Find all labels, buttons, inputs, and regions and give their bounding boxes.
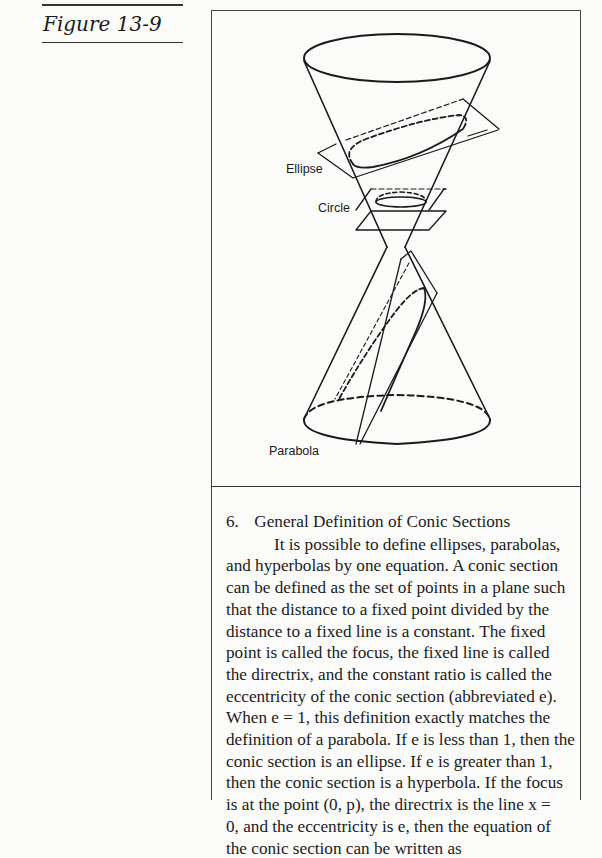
- paragraph-line: can be defined as the set of points in a…: [226, 577, 571, 599]
- upper-cone-left-edge: [304, 61, 387, 247]
- section-paragraph: It is possible to define ellipses, parab…: [226, 534, 571, 858]
- upper-cone-rim: [304, 34, 490, 82]
- circle-curve-front: [376, 197, 426, 207]
- figure-frame: Ellipse Circle Parabola 6. General Defin…: [211, 10, 581, 800]
- parabola-plane-left-edge: [356, 259, 401, 444]
- lower-cone-right-edge: [405, 247, 490, 419]
- lower-cone-left-edge: [304, 247, 387, 419]
- circle-label: Circle: [318, 201, 350, 215]
- section-text: 6. General Definition of Conic Sections …: [226, 511, 571, 858]
- lower-cone-base-front: [304, 419, 490, 444]
- paragraph-line: 0, and the eccentricity is e, then the e…: [226, 816, 571, 838]
- figure-caption-block: Figure 13-9: [42, 4, 183, 43]
- ellipse-plane-back-edge: [318, 144, 336, 153]
- ellipse-curve-back-dashed: [349, 115, 466, 164]
- ellipse-plane-back-dashed: [346, 99, 463, 140]
- paragraph-line: conic section is an ellipse. If e is gre…: [226, 751, 571, 773]
- paragraph-line: It is possible to define ellipses, parab…: [226, 534, 571, 556]
- figure-label: Figure 13-9: [42, 6, 183, 42]
- paragraph-line: is at the point (0, p), the directrix is…: [226, 794, 571, 816]
- section-number: 6.: [226, 511, 250, 533]
- paragraph-line: definition of a parabola. If e is less t…: [226, 729, 571, 751]
- paragraph-line: When e = 1, this definition exactly matc…: [226, 707, 571, 729]
- paragraph-line: eccentricity of the conic section (abbre…: [226, 686, 571, 708]
- paragraph-line: point is called the focus, the fixed lin…: [226, 642, 571, 664]
- ellipse-curve-front: [353, 129, 463, 168]
- parabola-label: Parabola: [269, 444, 319, 458]
- caption-bottom-rule: [42, 42, 183, 44]
- section-heading: 6. General Definition of Conic Sections: [226, 511, 571, 533]
- ellipse-label: Ellipse: [286, 162, 323, 176]
- paragraph-line: the directrix, and the constant ratio is…: [226, 664, 571, 686]
- paragraph-line: the conic section can be written as: [226, 838, 571, 858]
- conic-sections-figure: Ellipse Circle Parabola: [212, 11, 580, 487]
- section-title: General Definition of Conic Sections: [254, 512, 510, 531]
- paragraph-line: that the distance to a fixed point divid…: [226, 599, 571, 621]
- paragraph-line: distance to a fixed line is a constant. …: [226, 621, 571, 643]
- lower-cone-base-back-dashed: [304, 395, 490, 419]
- circle-plane-outline: [356, 211, 446, 230]
- parabola-curve-front: [381, 288, 425, 411]
- paragraph-line: and hyperbolas by one equation. A conic …: [226, 555, 571, 577]
- ellipse-plane-right-edge: [463, 99, 499, 129]
- parabola-plane-top: [401, 251, 437, 293]
- double-cone-diagram: Ellipse Circle Parabola: [212, 11, 582, 487]
- paragraph-line: then the conic section is a hyperbola. I…: [226, 772, 571, 794]
